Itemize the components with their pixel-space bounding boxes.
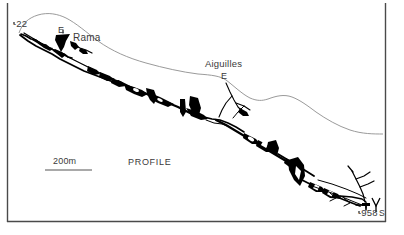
passage-label-rama: Rama	[73, 33, 100, 43]
profile-drawing	[0, 0, 404, 235]
entrance-label-mid: E	[221, 72, 227, 81]
figure-caption: PROFILE	[128, 158, 171, 167]
scale-bar-label: 200m	[53, 157, 76, 166]
passage-label-aiguilles: Aiguilles	[205, 59, 242, 69]
cave-passage-network	[20, 30, 374, 210]
depth-label-bottom: -958	[358, 208, 378, 218]
entrance-label-top: E	[58, 26, 64, 35]
cave-profile-figure: -22 E Rama Aiguilles E 200m PROFILE -958…	[0, 0, 404, 235]
depth-label-top: -22	[13, 19, 27, 29]
south-direction-label: S	[379, 209, 385, 218]
